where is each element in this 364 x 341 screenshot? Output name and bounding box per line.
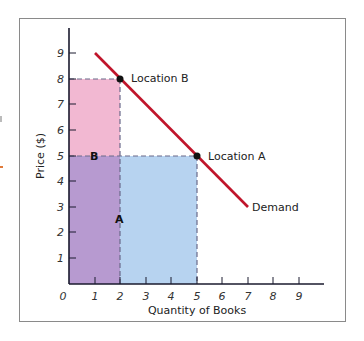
svg-text:3: 3 [57, 201, 64, 214]
svg-text:8: 8 [270, 290, 277, 303]
svg-text:6: 6 [219, 290, 226, 303]
edge-mark-orange [0, 166, 3, 168]
y-tick-labels: 1 2 3 4 5 6 7 8 9 [57, 47, 64, 265]
location-b-point [117, 76, 124, 83]
area-b-pink [69, 79, 120, 156]
svg-text:9: 9 [296, 290, 303, 303]
edge-mark-gray [0, 116, 2, 122]
area-a-blue [120, 156, 197, 284]
svg-text:4: 4 [57, 175, 64, 188]
svg-text:3: 3 [143, 290, 150, 303]
svg-text:8: 8 [57, 73, 64, 86]
svg-text:0: 0 [60, 290, 67, 303]
svg-text:6: 6 [57, 124, 64, 137]
svg-text:5: 5 [194, 290, 201, 303]
demand-chart: 1 2 3 4 5 6 7 8 9 0 1 2 3 4 5 6 7 8 9 Qu… [0, 0, 364, 341]
location-a-point [194, 153, 201, 160]
svg-text:9: 9 [57, 47, 64, 60]
location-b-label: Location B [131, 72, 189, 85]
svg-text:7: 7 [57, 98, 64, 111]
area-b-label: B [90, 150, 98, 163]
x-axis-label: Quantity of Books [148, 304, 247, 317]
svg-text:7: 7 [245, 290, 252, 303]
svg-text:2: 2 [117, 290, 124, 303]
svg-text:1: 1 [92, 290, 99, 303]
svg-text:1: 1 [57, 252, 64, 265]
area-a-label: A [115, 213, 124, 226]
svg-text:5: 5 [57, 150, 64, 163]
location-a-label: Location A [208, 150, 266, 163]
demand-label: Demand [252, 201, 299, 214]
y-axis-label: Price ($) [34, 133, 47, 179]
x-tick-labels: 0 1 2 3 4 5 6 7 8 9 [60, 290, 303, 303]
svg-text:4: 4 [168, 290, 175, 303]
area-overlap-purple [69, 156, 120, 284]
svg-text:2: 2 [57, 226, 64, 239]
